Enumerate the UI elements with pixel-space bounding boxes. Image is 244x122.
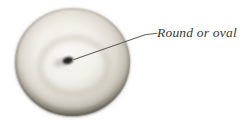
round-oval-lesion-illustration <box>0 0 244 122</box>
lesion-label: Round or oval <box>157 25 237 40</box>
figure: Round or oval <box>0 0 244 122</box>
